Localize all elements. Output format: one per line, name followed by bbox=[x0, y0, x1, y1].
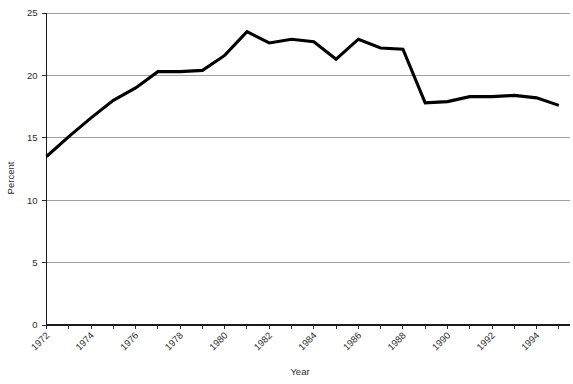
y-tick-label: 20 bbox=[27, 70, 38, 81]
x-tick-labels-group: 1972197419761978198019821984198619881990… bbox=[29, 330, 542, 353]
gridlines-group bbox=[47, 13, 571, 263]
chart-canvas: 0510152025 19721974197619781980198219841… bbox=[0, 0, 573, 384]
y-tick-label: 10 bbox=[27, 195, 38, 206]
x-tick-label: 1978 bbox=[162, 330, 185, 353]
y-tick-label: 15 bbox=[27, 132, 38, 143]
line-chart: 0510152025 19721974197619781980198219841… bbox=[0, 0, 573, 384]
x-axis-title: Year bbox=[290, 366, 309, 377]
x-tick-label: 1974 bbox=[73, 330, 96, 353]
y-tick-labels-group: 0510152025 bbox=[27, 7, 38, 330]
x-tick-label: 1976 bbox=[118, 330, 141, 353]
x-tick-label: 1972 bbox=[29, 330, 52, 353]
x-tick-label: 1986 bbox=[341, 330, 364, 353]
y-tick-label: 25 bbox=[27, 7, 38, 18]
x-tick-label: 1990 bbox=[430, 330, 453, 353]
y-tick-label: 5 bbox=[32, 257, 37, 268]
x-tick-label: 1982 bbox=[251, 330, 274, 353]
x-tick-label: 1994 bbox=[519, 330, 542, 353]
x-tick-label: 1984 bbox=[296, 330, 319, 353]
y-tick-label: 0 bbox=[32, 319, 37, 330]
x-tick-label: 1980 bbox=[207, 330, 230, 353]
x-tick-label: 1992 bbox=[474, 330, 497, 353]
y-axis-title: Percent bbox=[5, 161, 16, 194]
x-tick-label: 1988 bbox=[385, 330, 408, 353]
